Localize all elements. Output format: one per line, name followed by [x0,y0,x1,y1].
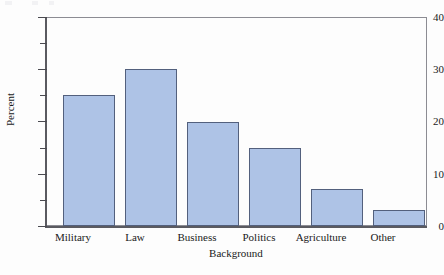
scan-artifact [49,1,54,5]
bar-other [373,210,425,226]
bars-container [46,17,427,226]
y-axis-title: Percent [5,80,16,140]
scan-artifact [5,1,12,5]
x-axis-title: Background [45,247,427,259]
y-tick-0 [38,226,47,227]
x-tick-label-other: Other [347,231,419,243]
scan-artifact [32,1,38,5]
x-axis-line [45,226,427,228]
bar-agriculture [311,189,363,226]
bar-business [187,122,239,227]
bar-law [125,69,177,226]
bar-military [63,95,115,226]
chart-figure: 40 30 20 10 0 Percent Military Law Busin… [0,0,444,275]
bar-politics [249,148,301,226]
